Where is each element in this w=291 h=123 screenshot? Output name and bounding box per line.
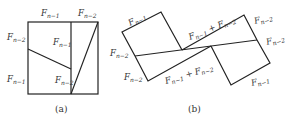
slanted-cut: [28, 49, 71, 69]
label-bottom-sum: Fn−1 + Fn−2: [163, 62, 215, 87]
figure-a: Fn−1 Fn−2 Fn−2 Fn−1 Fn−1 Fn−2 (a): [6, 8, 98, 114]
label-left-upper: Fn−2: [109, 48, 129, 59]
caption-a: (a): [55, 104, 67, 114]
diagonal-cut: [71, 22, 98, 94]
label-right-upper: Fn−2: [252, 11, 274, 27]
label-right-lower: Fn−2: [264, 32, 286, 48]
label-inner-upper: Fn−1: [52, 37, 72, 48]
caption-b: (b): [188, 104, 201, 114]
label-bottom-right: Fn−1: [249, 73, 271, 89]
label-top-sum: Fn−1 + Fn−2: [186, 14, 237, 43]
label-top-left: Fn−1: [40, 8, 60, 19]
label-left-lower: Fn−2: [123, 72, 143, 83]
label-top-right: Fn−2: [77, 8, 97, 19]
label-left-top: Fn−2: [6, 32, 26, 43]
figure-b: Fn−1 Fn−2 Fn−2 Fn−1 + Fn−2 Fn−1 + Fn−2 F…: [109, 10, 286, 114]
label-left-bottom: Fn−1: [6, 74, 26, 85]
fibonacci-dissection-diagram: Fn−1 Fn−2 Fn−2 Fn−1 Fn−1 Fn−2 (a) Fn−1 F…: [0, 0, 291, 123]
label-top-left-edge: Fn−1: [125, 10, 147, 29]
right-piece: [211, 40, 270, 85]
